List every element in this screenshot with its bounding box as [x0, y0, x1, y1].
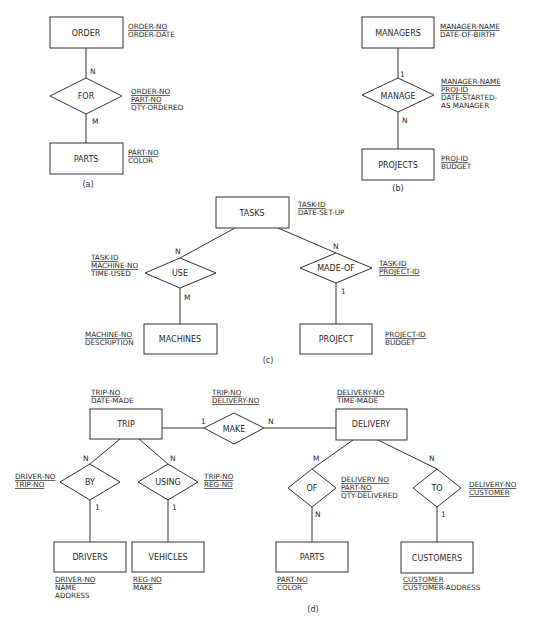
relationship-made-of-label: MADE-OF	[317, 264, 355, 273]
connector-tasks-madeof	[278, 228, 336, 253]
relationship-for-label: FOR	[78, 92, 95, 101]
attr-date-set-up: DATE-SET-UP	[298, 208, 345, 217]
attr-time-used: TIME-USED	[90, 269, 131, 278]
card-order-for: N	[90, 67, 96, 76]
attr-budget-c: BUDGET	[385, 338, 416, 347]
attr-time-made: TIME-MADE	[336, 396, 378, 405]
entity-managers-label: MANAGERS	[375, 29, 421, 38]
panel-a: ORDER ORDER-NO ORDER-DATE N FOR ORDER-NO…	[50, 17, 184, 189]
relationship-manage-label: MANAGE	[381, 92, 416, 101]
card-manage-projects: N	[402, 116, 408, 125]
card-of-delivery: M	[313, 454, 319, 463]
entity-tasks-label: TASKS	[238, 209, 264, 218]
entity-delivery-label: DELIVERY	[352, 420, 391, 429]
card-of-parts: N	[315, 510, 321, 519]
connector-trip-by	[90, 439, 120, 464]
entity-drivers-label: DRIVERS	[72, 553, 107, 562]
relationship-using-label: USING	[155, 478, 180, 487]
caption-b: (b)	[392, 184, 403, 193]
caption-d: (d)	[307, 605, 318, 614]
entity-parts-d-label: PARTS	[300, 553, 325, 562]
panel-c: TASKS TASK-ID DATE-SET-UP N USE TASK-ID …	[85, 197, 426, 365]
card-for-parts: M	[92, 117, 98, 126]
relationship-by-label: BY	[85, 478, 95, 487]
panel-b: MANAGERS MANAGER-NAME DATE-OF-BIRTH 1 MA…	[362, 17, 501, 193]
card-to-customers: 1	[441, 510, 446, 519]
card-managers-manage: 1	[400, 70, 405, 79]
attr-description: DESCRIPTION	[85, 338, 134, 347]
card-to-delivery: N	[429, 454, 435, 463]
entity-trip-label: TRIP	[116, 420, 135, 429]
card-madeof-project: 1	[341, 287, 346, 296]
attr-color-d: COLOR	[277, 583, 302, 592]
entity-customers-label: CUSTOMERS	[412, 554, 462, 563]
relationship-to-label: TO	[430, 484, 442, 493]
attr-date-made: DATE-MADE	[91, 396, 134, 405]
er-diagram-canvas: ORDER ORDER-NO ORDER-DATE N FOR ORDER-NO…	[0, 0, 539, 629]
attr-customer-address: CUSTOMER-ADDRESS	[403, 583, 481, 592]
card-make-delivery: N	[268, 417, 274, 426]
attr-by-trip-no: TRIP-NO	[14, 480, 45, 489]
entity-vehicles-label: VEHICLES	[148, 553, 187, 562]
entity-order-label: ORDER	[72, 29, 101, 38]
entity-projects-label: PROJECTS	[378, 161, 418, 170]
caption-c: (c)	[263, 356, 274, 365]
card-make-trip: 1	[201, 417, 206, 426]
attr-make: MAKE	[133, 583, 154, 592]
attr-to-customer: CUSTOMER	[469, 488, 510, 497]
card-by-trip: N	[83, 454, 89, 463]
card-using-trip: N	[170, 454, 176, 463]
attr-qty-delivered: QTY-DELIVERED	[341, 491, 398, 500]
attr-using-reg-no: REG-NO	[204, 480, 233, 489]
attr-address: ADDRESS	[55, 591, 90, 600]
card-using-vehicles: 1	[172, 503, 177, 512]
card-by-drivers: 1	[95, 503, 100, 512]
panel-d: TRIP TRIP-NO DATE-MADE 1 MAKE TRIP-NO DE…	[14, 388, 517, 614]
attr-madeof-project-id: PROJECT-ID	[379, 267, 420, 276]
attr-as-manager: AS MANAGER	[441, 101, 489, 110]
attr-for-qty-ordered: QTY-ORDERED	[131, 103, 184, 112]
connector-trip-using	[139, 439, 168, 464]
connector-tasks-use	[180, 228, 235, 258]
entity-parts-a-label: PARTS	[74, 155, 99, 164]
relationship-make-label: MAKE	[223, 425, 246, 434]
entity-machines-label: MACHINES	[159, 335, 201, 344]
card-use-machines: M	[184, 293, 190, 302]
relationship-use-label: USE	[172, 269, 188, 278]
attr-budget-b: BUDGET	[441, 162, 472, 171]
attr-make-delivery-no: DELIVERY-NO	[212, 396, 260, 405]
card-madeof-tasks: N	[333, 242, 339, 251]
caption-a: (a)	[82, 180, 93, 189]
entity-project-label: PROJECT	[319, 335, 354, 344]
attr-date-of-birth: DATE-OF-BIRTH	[440, 30, 495, 39]
relationship-of-label: OF	[307, 484, 318, 493]
attr-order-date: ORDER-DATE	[128, 30, 175, 39]
card-use-tasks: N	[175, 247, 181, 256]
attr-color-a: COLOR	[128, 156, 153, 165]
